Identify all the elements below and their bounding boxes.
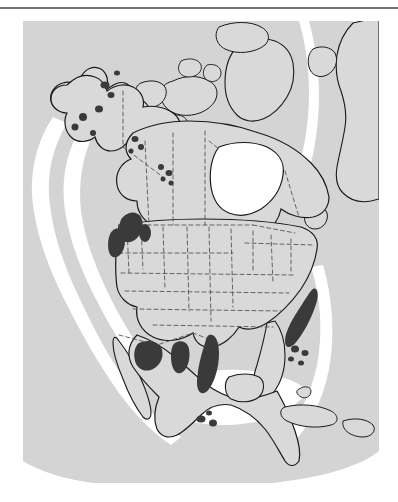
- range-dot-ak-7: [114, 71, 120, 76]
- range-dot-appalachian-4: [298, 361, 304, 366]
- island-ellesmere: [216, 23, 268, 53]
- range-dot-mexico-2: [209, 420, 217, 427]
- range-dot-ak-3: [95, 106, 103, 113]
- range-dot-ak-2: [108, 92, 115, 98]
- north-america-map: [23, 21, 379, 483]
- island-arctic-small-b: [203, 64, 221, 81]
- island-arctic-small-a: [178, 59, 201, 77]
- range-dot-appalachian-1: [291, 346, 299, 353]
- range-dot-mexico-3: [206, 411, 212, 416]
- landmass-yucatan: [225, 374, 263, 402]
- figure-page: [0, 0, 398, 502]
- range-dot-ak-6: [90, 130, 96, 136]
- range-dot-bc-7: [169, 181, 174, 186]
- map-frame: [23, 21, 379, 483]
- range-dot-bc-3: [129, 149, 134, 154]
- top-horizontal-rule: [0, 7, 398, 9]
- range-dot-bc-2: [138, 144, 144, 150]
- range-dot-appalachian-2: [302, 350, 309, 356]
- range-dot-bc-1: [132, 136, 139, 142]
- range-dot-ak-4: [79, 113, 87, 121]
- range-dot-mexico-1: [197, 416, 206, 423]
- range-dot-ak-1: [101, 82, 110, 89]
- range-dot-ak-5: [72, 124, 79, 131]
- range-dot-bc-6: [161, 177, 166, 182]
- range-dot-appalachian-3: [288, 357, 294, 362]
- range-blob-olympic: [139, 224, 151, 242]
- range-dot-bc-5: [166, 170, 173, 176]
- range-dot-bc-4: [158, 164, 164, 170]
